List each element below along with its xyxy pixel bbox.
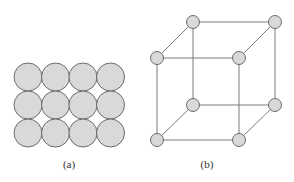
cube-node-top-back-right (269, 16, 282, 29)
atom-circle (97, 119, 125, 147)
atom-circle (69, 63, 97, 91)
atom-circle (97, 63, 125, 91)
diagram-canvas: (a) (b) (0, 0, 294, 182)
cube-edge (239, 22, 275, 58)
circle-packing-figure (14, 63, 125, 147)
cube-node-bottom-front-right (233, 134, 246, 147)
atom-circle (42, 119, 70, 147)
cube-node-bottom-front-left (151, 134, 164, 147)
cube-node-top-back-left (187, 16, 200, 29)
atom-circle (14, 91, 42, 119)
cube-edges (157, 22, 275, 140)
atom-circle (69, 119, 97, 147)
atom-circle (42, 91, 70, 119)
atom-circle (97, 91, 125, 119)
atom-circle (14, 63, 42, 91)
figure-b-label: (b) (201, 158, 214, 171)
figure-a-label: (a) (63, 158, 76, 171)
cube-node-bottom-back-right (269, 99, 282, 112)
cube-node-bottom-back-left (187, 99, 200, 112)
atom-circle (69, 91, 97, 119)
cube-edge (157, 105, 193, 140)
atom-circle (42, 63, 70, 91)
atom-circle (14, 119, 42, 147)
cube-edge (239, 105, 275, 140)
cube-node-top-front-left (151, 52, 164, 65)
cube-edge (157, 22, 193, 58)
cube-node-top-front-right (233, 52, 246, 65)
